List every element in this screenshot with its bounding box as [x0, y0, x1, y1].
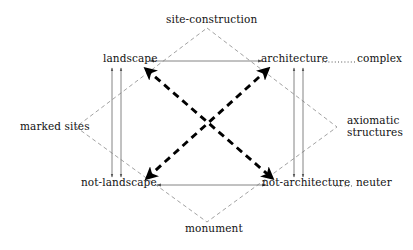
implication-right-arrows [294, 68, 303, 177]
schema-label-neuter: neuter [356, 177, 392, 189]
vertex-monument: monument [185, 223, 243, 235]
vertex-marked-sites: marked sites [20, 121, 90, 133]
term-not-landscape: not-landscape [81, 177, 157, 189]
semiotic-square-diagram: landscape architecture not-landscape not… [0, 0, 413, 250]
axiomatic-line-2: structures [347, 126, 403, 138]
vertex-axiomatic-structures: axiomatic structures [347, 115, 413, 138]
term-landscape: landscape [103, 53, 157, 65]
schema-label-complex: complex [357, 53, 402, 65]
axiomatic-line-1: axiomatic [347, 114, 399, 126]
implication-left-arrows [112, 68, 121, 177]
term-not-architecture: not-architecture [262, 177, 350, 189]
vertex-site-construction: site-construction [166, 14, 257, 26]
term-architecture: architecture [261, 53, 328, 65]
